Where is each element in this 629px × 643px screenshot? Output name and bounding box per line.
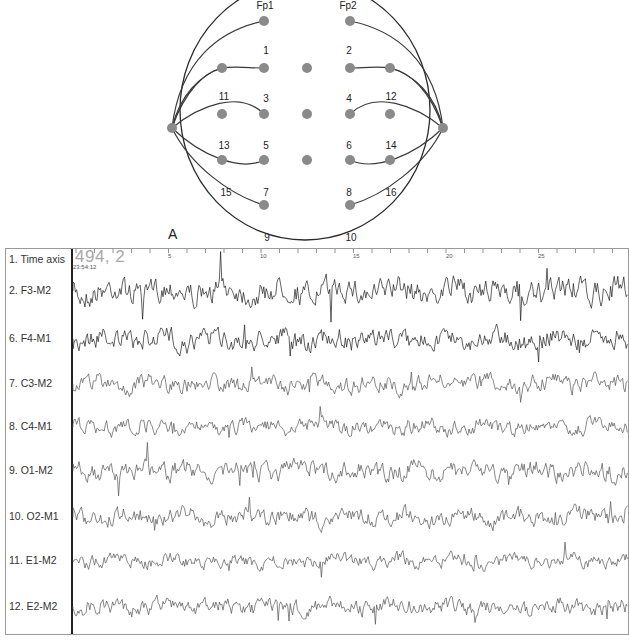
panel-label: A xyxy=(168,226,177,242)
svg-text:6: 6 xyxy=(346,140,352,151)
svg-text:9: 9 xyxy=(264,232,270,243)
head-outline xyxy=(180,0,430,240)
svg-text:15: 15 xyxy=(220,187,232,198)
eeg-waveform xyxy=(73,252,627,323)
electrode-labels: Fp1Fp2 12 113412 135614 157816 910 xyxy=(218,0,397,243)
svg-text:8: 8 xyxy=(346,187,352,198)
eeg-waveform xyxy=(73,367,627,402)
svg-text:1: 1 xyxy=(263,45,269,56)
eeg-waveform xyxy=(73,497,627,532)
svg-text:16: 16 xyxy=(385,187,397,198)
eeg-viewer: 1. Time axis 2. F3-M2 6. F4-M1 7. C3-M2 … xyxy=(5,248,629,635)
eeg-waveform xyxy=(73,406,627,437)
right-reference-lines xyxy=(350,21,443,205)
eeg-waveform xyxy=(73,542,627,577)
time-tick-label: 15 xyxy=(353,253,360,259)
svg-text:3: 3 xyxy=(263,93,269,104)
channel-label: 10. O2-M1 xyxy=(9,510,59,522)
svg-text:14: 14 xyxy=(385,140,397,151)
time-tick-label: 20 xyxy=(446,253,453,259)
svg-text:2: 2 xyxy=(346,45,352,56)
svg-text:5: 5 xyxy=(263,140,269,151)
time-axis-label: 1. Time axis xyxy=(9,253,65,265)
channel-label: 2. F3-M2 xyxy=(9,284,51,296)
time-tick-label: 5 xyxy=(168,253,171,259)
electrode-montage-diagram: Fp1Fp2 12 113412 135614 157816 910 A xyxy=(0,0,629,245)
channel-label: 9. O1-M2 xyxy=(9,464,53,476)
svg-text:13: 13 xyxy=(218,140,230,151)
trace-area[interactable]: 494, 2 23:54:12 5 10 15 20 25 xyxy=(71,249,628,634)
clock-time: 23:54:12 xyxy=(73,264,96,270)
channel-label-column: 1. Time axis 2. F3-M2 6. F4-M1 7. C3-M2 … xyxy=(6,249,72,634)
channel-label: 12. E2-M2 xyxy=(9,600,57,612)
svg-text:7: 7 xyxy=(263,187,269,198)
svg-text:Fp1: Fp1 xyxy=(256,0,274,11)
electrodes xyxy=(167,16,448,210)
waveforms xyxy=(73,252,627,625)
eeg-waveform xyxy=(73,324,627,362)
time-tick-label: 25 xyxy=(538,253,545,259)
svg-text:11: 11 xyxy=(219,91,230,102)
channel-label: 8. C4-M1 xyxy=(9,420,52,432)
svg-text:Fp2: Fp2 xyxy=(339,0,357,11)
svg-text:10: 10 xyxy=(345,232,357,243)
time-axis-ticks xyxy=(76,249,613,253)
channel-label: 6. F4-M1 xyxy=(9,332,51,344)
svg-text:12: 12 xyxy=(385,91,397,102)
channel-label: 7. C3-M2 xyxy=(9,377,52,389)
time-tick-label: 10 xyxy=(260,253,267,259)
eeg-waveform xyxy=(73,442,627,496)
channel-label: 11. E1-M2 xyxy=(9,554,57,566)
eeg-waveform xyxy=(73,595,627,624)
montage-svg: Fp1Fp2 12 113412 135614 157816 910 xyxy=(0,0,629,245)
eeg-traces xyxy=(71,249,628,634)
svg-text:4: 4 xyxy=(346,93,352,104)
